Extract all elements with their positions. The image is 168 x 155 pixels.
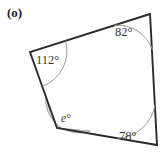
angle-label-bottom-right: 78° — [119, 129, 137, 143]
angle-label-bottom-left: e° — [61, 112, 71, 124]
angle-label-left: 112° — [36, 53, 59, 67]
quadrilateral-outline — [30, 14, 157, 145]
quadrilateral-diagram: 82° 112° e° 78° — [0, 0, 168, 155]
figure-container: (o) 82° 112° e° 78° — [0, 0, 168, 155]
angle-label-top-right: 82° — [115, 25, 133, 39]
